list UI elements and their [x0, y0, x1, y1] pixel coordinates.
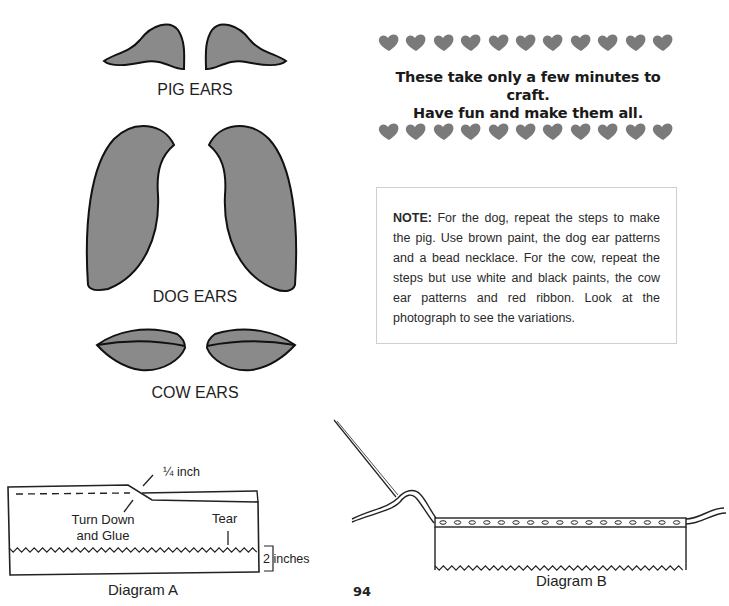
heart-icon: [652, 33, 674, 55]
tagline-line-1: These take only a few minutes to craft.: [378, 68, 678, 104]
heart-icon: [515, 33, 537, 55]
heart-icon: [625, 122, 647, 144]
cow-ear-right-icon: [205, 326, 297, 374]
tagline: These take only a few minutes to craft. …: [378, 68, 678, 122]
needle-icon: [334, 420, 396, 497]
heart-icon: [542, 122, 564, 144]
pig-ears-label: PIG EARS: [100, 81, 290, 99]
diagram-b-caption: Diagram B: [536, 572, 607, 589]
fold-annotation: ¼ inch: [163, 465, 200, 479]
hearts-row-bottom: [378, 122, 674, 144]
heart-icon: [570, 122, 592, 144]
heart-icon: [405, 122, 427, 144]
note-box: NOTE: For the dog, repeat the steps to m…: [376, 187, 677, 344]
measure-annotation: 2 inches: [263, 552, 310, 566]
tear-annotation: Tear: [212, 511, 237, 526]
cow-ears-label: COW EARS: [100, 384, 290, 402]
heart-icon: [515, 122, 537, 144]
heart-icon: [405, 33, 427, 55]
diagram-a-caption: Diagram A: [108, 581, 178, 598]
diagram-a-drawing: [0, 460, 300, 580]
cow-ear-left-icon: [95, 326, 187, 374]
pig-ear-left-icon: [100, 18, 190, 73]
diagram-b-drawing: [320, 410, 729, 570]
dog-ear-left-icon: [84, 125, 179, 293]
dog-ear-right-icon: [205, 125, 300, 293]
note-heading: NOTE:: [393, 211, 432, 225]
heart-icon: [433, 122, 455, 144]
heart-icon: [460, 122, 482, 144]
heart-icon: [378, 33, 400, 55]
hearts-row-top: [378, 33, 674, 55]
heart-icon: [597, 122, 619, 144]
heart-icon: [597, 33, 619, 55]
heart-icon: [625, 33, 647, 55]
page-number: 94: [353, 584, 371, 599]
heart-icon: [378, 122, 400, 144]
pig-ear-right-icon: [200, 18, 290, 73]
note-body: For the dog, repeat the steps to make th…: [393, 211, 660, 325]
heart-icon: [460, 33, 482, 55]
dog-ears-label: DOG EARS: [100, 288, 290, 306]
heart-icon: [488, 122, 510, 144]
heart-icon: [488, 33, 510, 55]
heart-icon: [570, 33, 592, 55]
heart-icon: [542, 33, 564, 55]
and-glue-text: and Glue: [58, 528, 148, 544]
heart-icon: [433, 33, 455, 55]
tagline-line-2: Have fun and make them all.: [378, 104, 678, 122]
turn-down-text: Turn Down: [58, 512, 148, 528]
turn-down-annotation: Turn Down and Glue: [58, 512, 148, 544]
heart-icon: [652, 122, 674, 144]
